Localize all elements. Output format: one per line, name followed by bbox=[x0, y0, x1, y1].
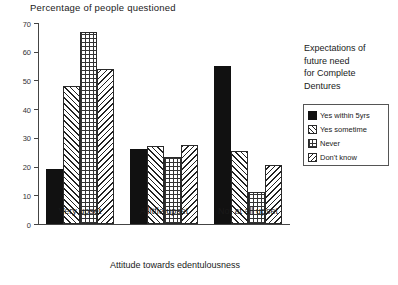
y-axis-tick-label: 50 bbox=[23, 76, 31, 85]
bar bbox=[63, 86, 80, 224]
legend-item: Don't know bbox=[308, 151, 385, 164]
legend-item: Yes within 5yrs bbox=[308, 109, 385, 122]
y-axis-tick-label: 60 bbox=[23, 48, 31, 57]
legend-box: Yes within 5yrsYes sometimeNeverDon't kn… bbox=[303, 104, 389, 166]
x-axis-title: Attitude towards edentulousness bbox=[60, 260, 290, 270]
bar bbox=[97, 69, 114, 224]
y-axis-tick-label: 30 bbox=[23, 134, 31, 143]
plot-area: 010203040506070 bbox=[38, 23, 290, 225]
bar-chart-figure: Percentage of people questioned 01020304… bbox=[0, 0, 398, 285]
bar bbox=[214, 66, 231, 224]
chart-title: Percentage of people questioned bbox=[30, 2, 176, 13]
legend-heading: Expectations of future need for Complete… bbox=[304, 42, 396, 92]
crosshatch-grid-swatch bbox=[308, 139, 317, 148]
legend-item-label: Yes within 5yrs bbox=[320, 111, 370, 120]
y-axis-tick-label: 0 bbox=[27, 220, 31, 229]
legend-item-label: Yes sometime bbox=[320, 125, 367, 134]
legend-heading-line: for Complete bbox=[304, 67, 396, 80]
x-axis-category-label: Not at all upset bbox=[193, 206, 303, 216]
x-axis-line bbox=[38, 224, 290, 225]
legend-item-label: Don't know bbox=[320, 153, 357, 162]
legend-item: Never bbox=[308, 137, 385, 150]
y-axis-tick-label: 70 bbox=[23, 19, 31, 28]
back-diagonal-hatch-swatch bbox=[308, 153, 317, 162]
legend-item: Yes sometime bbox=[308, 123, 385, 136]
legend-heading-line: Expectations of bbox=[304, 42, 396, 55]
y-axis-tick-label: 10 bbox=[23, 191, 31, 200]
solid-black-swatch bbox=[308, 111, 317, 120]
legend-heading-line: future need bbox=[304, 55, 396, 68]
bar bbox=[80, 32, 97, 224]
y-axis-tick-label: 20 bbox=[23, 163, 31, 172]
y-axis-tick-label: 40 bbox=[23, 105, 31, 114]
bars-layer bbox=[38, 23, 290, 224]
diagonal-hatch-swatch bbox=[308, 125, 317, 134]
legend-item-label: Never bbox=[320, 139, 340, 148]
legend-heading-line: Dentures bbox=[304, 80, 396, 93]
y-axis-tick: 0 bbox=[34, 224, 38, 225]
